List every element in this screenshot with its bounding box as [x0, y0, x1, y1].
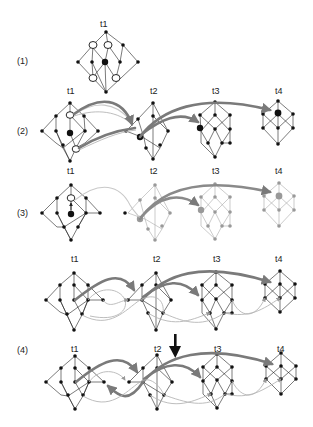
time-label-t2: t2 — [154, 344, 162, 354]
panel-3: t1 t2 t3 t4 — [40, 166, 296, 242]
panel-label-2: (2) — [17, 126, 28, 136]
time-label-t3: t3 — [213, 254, 221, 264]
time-label-t2: t2 — [153, 254, 161, 264]
panel-label-4: (4) — [17, 345, 28, 355]
panel-label-1: (1) — [17, 56, 28, 66]
time-label-t2: t2 — [150, 86, 158, 96]
time-label-t1: t1 — [71, 254, 79, 264]
lattice-t1 — [44, 271, 105, 332]
time-label-t3: t3 — [212, 86, 220, 96]
time-label-t4: t4 — [275, 166, 283, 176]
lattice-t1 — [40, 183, 102, 242]
lattice-t2 — [123, 183, 172, 242]
lattice-diagram-figure: (1) (2) (3) (4) t1 t1 t2 t3 — [0, 0, 313, 427]
time-label-t1: t1 — [100, 19, 108, 29]
time-label-t2: t2 — [150, 166, 158, 176]
lattice-t4 — [261, 99, 295, 146]
panel-1: t1 — [76, 19, 140, 94]
time-label-t4: t4 — [275, 86, 283, 96]
lattice-t4 — [262, 181, 296, 228]
time-label-t1: t1 — [71, 344, 79, 354]
lattice-t3 — [197, 100, 232, 159]
time-label-t1: t1 — [67, 86, 75, 96]
time-label-t3: t3 — [212, 166, 220, 176]
lattice-t4 — [264, 351, 298, 396]
down-arrow-icon — [169, 334, 181, 358]
lattice-t3 — [198, 182, 232, 241]
time-label-t4: t4 — [275, 254, 283, 264]
panel-4b: t1 t2 t3 t4 — [44, 334, 298, 411]
panel-4a: t1 t2 t3 t4 — [44, 254, 297, 332]
panel-2: t1 t2 t3 t4 — [40, 86, 295, 163]
lattice-t3 — [201, 352, 234, 410]
lattice-t4 — [263, 269, 297, 314]
lattice-t1 — [76, 30, 140, 94]
lattice-t1 — [40, 101, 100, 163]
panel-label-3: (3) — [17, 208, 28, 218]
time-label-t1: t1 — [67, 166, 75, 176]
focus-node — [102, 59, 108, 65]
